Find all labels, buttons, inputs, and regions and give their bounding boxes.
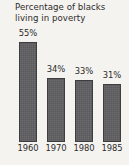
- bar-rect: [47, 78, 65, 142]
- x-axis-labels: 1960 1970 1980 1985: [0, 143, 129, 157]
- plot-area: 55% 34% 33% 31%: [0, 28, 129, 142]
- x-axis-tick-label: 1980: [70, 143, 98, 154]
- x-axis-tick-label: 1970: [42, 143, 70, 154]
- bar-column: 55%: [14, 29, 42, 142]
- bar-value-label: 33%: [70, 67, 98, 76]
- bar-rect: [19, 42, 37, 142]
- bar-chart: Percentage of blacks living in poverty 5…: [0, 0, 129, 165]
- bar-value-label: 31%: [98, 71, 126, 80]
- x-axis-tick-label: 1985: [98, 143, 126, 154]
- chart-title: Percentage of blacks living in poverty: [15, 2, 127, 23]
- bar-column: 31%: [98, 29, 126, 142]
- x-axis-tick-label: 1960: [14, 143, 42, 154]
- bar-column: 33%: [70, 29, 98, 142]
- bar-column: 34%: [42, 29, 70, 142]
- bar-value-label: 34%: [42, 65, 70, 74]
- bar-rect: [103, 84, 121, 142]
- bar-value-label: 55%: [14, 29, 42, 38]
- bar-rect: [75, 80, 93, 142]
